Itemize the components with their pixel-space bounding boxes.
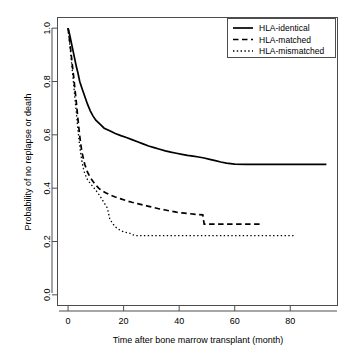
- y-tick-label: 1.0: [42, 22, 52, 35]
- y-axis-title: Probability of no replapse or death: [23, 93, 33, 230]
- plot-frame: [58, 18, 338, 306]
- y-tick-label: 0.6: [42, 129, 52, 142]
- y-tick-label: 0.4: [42, 182, 52, 195]
- x-tick-label: 0: [66, 316, 71, 326]
- legend-label-0: HLA-identical: [259, 23, 310, 33]
- chart-canvas: 0.00.20.40.60.81.0 020406080 HLA-identic…: [0, 0, 354, 361]
- x-axis-title: Time after bone marrow transplant (month…: [113, 335, 284, 345]
- x-tick-group: 020406080: [66, 306, 296, 326]
- y-tick-label: 0.8: [42, 75, 52, 88]
- y-tick-label: 0.0: [42, 289, 52, 302]
- curve-group: [68, 28, 326, 235]
- y-tick-group: 0.00.20.40.60.81.0: [42, 22, 57, 301]
- legend-label-2: HLA-mismatched: [259, 46, 324, 56]
- legend: HLA-identicalHLA-matchedHLA-mismatched: [228, 19, 336, 58]
- x-tick-label: 20: [119, 316, 129, 326]
- curve-hla-mismatched: [68, 28, 296, 235]
- x-tick-label: 60: [230, 316, 240, 326]
- y-axis: 0.00.20.40.60.81.0: [42, 22, 57, 301]
- y-tick-label: 0.2: [42, 235, 52, 248]
- survival-curve-chart: 0.00.20.40.60.81.0 020406080 HLA-identic…: [0, 0, 354, 361]
- legend-label-1: HLA-matched: [259, 35, 311, 45]
- x-axis: 020406080: [59, 306, 337, 326]
- x-tick-label: 80: [285, 316, 295, 326]
- x-tick-label: 40: [174, 316, 184, 326]
